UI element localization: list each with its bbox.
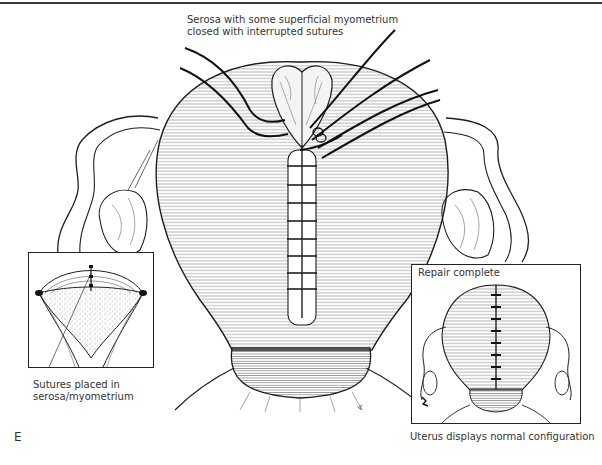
left-inset-cross-section: [28, 252, 154, 368]
left-inset-caption-line1: Sutures placed in: [33, 379, 134, 391]
right-inset-caption: Uterus displays normal configuration: [410, 431, 595, 443]
right-inset-repair-complete: Repair complete: [411, 264, 581, 424]
repaired-uterus-illustration: [412, 265, 580, 423]
top-annotation: Serosa with some superficial myometrium …: [187, 14, 398, 38]
right-ovary: [442, 190, 494, 258]
suture-line: [287, 145, 317, 325]
top-annotation-line1: Serosa with some superficial myometrium: [187, 14, 398, 26]
top-annotation-line2: closed with interrupted sutures: [187, 26, 398, 38]
left-inset-caption-line2: serosa/myometrium: [33, 391, 134, 403]
cross-section-illustration: [29, 253, 153, 367]
cervix: [231, 348, 370, 398]
left-inset-caption: Sutures placed in serosa/myometrium: [33, 379, 134, 403]
svg-text:∢: ∢: [357, 404, 363, 412]
panel-letter: E: [14, 431, 22, 443]
left-ovary: [99, 190, 147, 255]
uterine-cavity: [39, 287, 143, 358]
